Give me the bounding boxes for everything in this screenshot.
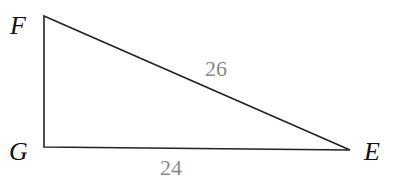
vertex-label-g: G	[9, 137, 28, 166]
side-label-fe: 26	[205, 56, 227, 81]
vertex-label-f: F	[9, 11, 27, 40]
triangle-fge	[44, 16, 350, 150]
vertex-label-e: E	[363, 137, 380, 166]
triangle-diagram: F G E 26 24	[0, 0, 396, 196]
side-label-ge: 24	[160, 155, 182, 180]
